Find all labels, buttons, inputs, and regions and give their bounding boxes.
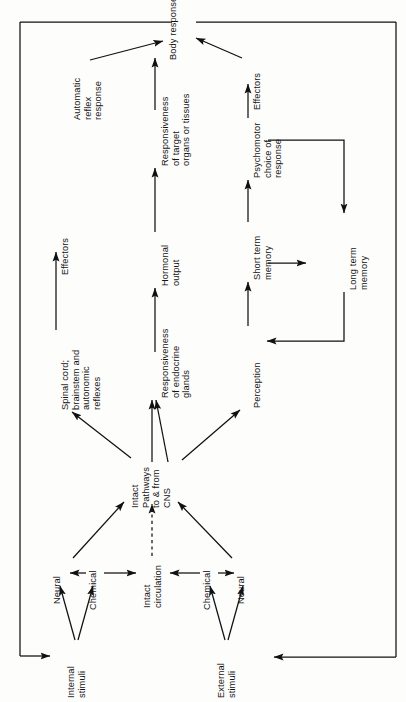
node-neural-right: Neural	[236, 562, 247, 604]
node-automatic-reflex-response: Automatic reflex response	[72, 54, 104, 120]
diagram-canvas: Body response Automatic reflex response …	[0, 0, 406, 702]
node-short-term-memory: Short term memory	[252, 218, 273, 280]
node-intact-pathways-cns: Intact Pathways to & from CNS	[130, 446, 172, 508]
node-chemical-right: Chemical	[202, 560, 213, 610]
edge-label-effectors-right: Effectors	[252, 50, 263, 110]
edge-label-effectors-left: Effectors	[60, 215, 71, 275]
node-perception: Perception	[252, 350, 263, 408]
edge-neuralR-to-cns	[178, 502, 232, 558]
node-responsiveness-target: Responsiveness of target organs or tissu…	[160, 70, 192, 166]
node-neural-left: Neural	[52, 562, 63, 604]
edge-ltm-to-perception	[267, 292, 344, 341]
node-internal-stimuli: Internal stimuli	[66, 644, 87, 698]
node-hormonal-output: Hormonal output	[160, 226, 181, 286]
edge-cns-to-spinalcord	[72, 412, 131, 458]
node-chemical-left: Chemical	[88, 560, 99, 610]
node-responsiveness-endocrine: Responsiveness of endocrine glands	[160, 314, 192, 398]
node-psychomotor-choice: Psychomotor choice of response	[252, 110, 284, 178]
edge-effectors-to-bodyresponse	[196, 38, 242, 58]
edge-cns-to-perception	[182, 410, 240, 460]
node-long-term-memory: Long term memory	[348, 228, 369, 290]
edge-neuralL-to-cns	[73, 502, 124, 558]
node-intact-circulation: Intact circulation	[142, 550, 163, 608]
node-external-stimuli: External stimuli	[216, 644, 237, 698]
node-body-response: Body response	[168, 0, 179, 60]
node-spinal-cord: Spinal cord; brainstem and autonomic ref…	[60, 336, 102, 410]
